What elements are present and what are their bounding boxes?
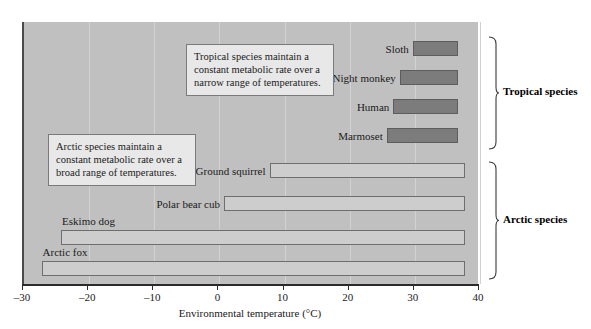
x-axis-tick-label: –10 xyxy=(132,291,172,303)
bar-label-human: Human xyxy=(239,101,389,113)
bar-eskimo-dog xyxy=(61,230,465,245)
metabolic-rate-chart: Environmental temperature (°C) –30–20–10… xyxy=(0,0,591,329)
x-axis-tick-label: –20 xyxy=(67,291,107,303)
x-axis-tick xyxy=(283,284,284,290)
x-axis-tick xyxy=(413,284,414,290)
x-axis-tick xyxy=(22,284,23,290)
x-axis-tick-label: 30 xyxy=(393,291,433,303)
tropical-bracket-label: Tropical species xyxy=(503,85,577,97)
annotation-arctic-note: Arctic species maintain a constant metab… xyxy=(48,134,196,186)
x-axis-label: Environmental temperature (°C) xyxy=(22,307,478,319)
arctic-bracket xyxy=(487,161,500,280)
bar-polar-bear-cub xyxy=(224,196,465,211)
gridline xyxy=(480,22,481,284)
x-axis-tick xyxy=(87,284,88,290)
bar-human xyxy=(393,99,458,114)
bar-sloth xyxy=(413,41,459,56)
x-axis-tick-label: 20 xyxy=(328,291,368,303)
x-axis-line xyxy=(22,284,478,286)
x-axis-tick-label: 40 xyxy=(458,291,498,303)
x-axis-tick xyxy=(152,284,153,290)
x-axis-tick-label: 10 xyxy=(263,291,303,303)
bar-label-eskimo-dog: Eskimo dog xyxy=(62,215,115,227)
bar-label-marmoset: Marmoset xyxy=(233,130,383,142)
tropical-bracket xyxy=(487,36,500,150)
x-axis-tick xyxy=(217,284,218,290)
bar-label-polar-bear-cub: Polar bear cub xyxy=(70,198,220,210)
bar-arctic-fox xyxy=(42,261,465,276)
arctic-bracket-label: Arctic species xyxy=(503,213,567,225)
x-axis-tick xyxy=(478,284,479,290)
bar-night-monkey xyxy=(400,70,459,85)
bar-label-arctic-fox: Arctic fox xyxy=(43,246,88,258)
bar-ground-squirrel xyxy=(270,163,465,178)
x-axis-tick-label: –30 xyxy=(2,291,42,303)
x-axis-tick-label: 0 xyxy=(197,291,237,303)
bar-marmoset xyxy=(387,128,459,143)
annotation-tropical-note: Tropical species maintain a constant met… xyxy=(186,44,334,96)
x-axis-tick xyxy=(348,284,349,290)
